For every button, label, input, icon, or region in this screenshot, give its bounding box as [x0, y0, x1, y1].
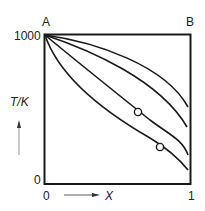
y-axis-label: T/K — [10, 96, 29, 108]
curve-1 — [45, 35, 188, 107]
x-tick-0: 0 — [43, 190, 50, 202]
corner-label-a: A — [42, 16, 50, 28]
y-tick-0: 0 — [34, 174, 41, 186]
corner-label-b: B — [186, 16, 194, 28]
plot-frame — [45, 35, 191, 185]
x-arrow-icon — [92, 193, 100, 197]
marker-circle-1 — [134, 108, 141, 115]
x-tick-1: 1 — [188, 190, 195, 202]
x-axis-label: X — [105, 190, 113, 202]
marker-circle-2 — [156, 143, 163, 150]
y-tick-1000: 1000 — [14, 30, 41, 42]
y-arrow-icon — [17, 120, 21, 128]
curve-4 — [45, 35, 188, 170]
